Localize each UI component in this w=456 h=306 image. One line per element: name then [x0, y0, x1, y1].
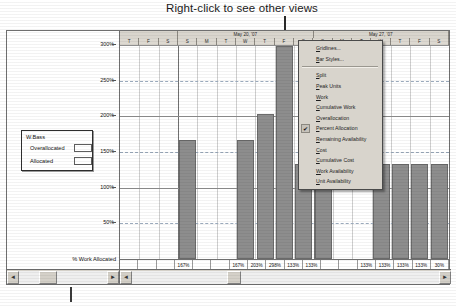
- bar[interactable]: [237, 140, 254, 259]
- timescale-day-cell: S: [178, 38, 197, 45]
- context-menu-item[interactable]: Unit Availability: [299, 176, 382, 187]
- timescale-day-cell: T: [391, 38, 410, 45]
- bar[interactable]: [392, 164, 409, 259]
- timescale-day-cell: S: [430, 38, 449, 45]
- timescale-major-cell: May 27, '07: [314, 31, 449, 38]
- y-axis-tick: [112, 80, 116, 81]
- bar[interactable]: [257, 114, 274, 259]
- context-menu-item[interactable]: Cumulative Work: [299, 102, 382, 113]
- context-menu-item[interactable]: Bar Styles...: [299, 54, 382, 65]
- bar[interactable]: [431, 164, 448, 259]
- context-menu-item-label: Percent Allocation: [316, 125, 358, 131]
- context-menu-item-label: Peak Units: [316, 83, 341, 89]
- bottom-leader-line: [70, 287, 72, 302]
- scroll-thumb[interactable]: [227, 271, 241, 284]
- context-menu-item[interactable]: Work Availability: [299, 166, 382, 177]
- context-menu-item-label: Work: [316, 94, 328, 100]
- context-menu-item-label: Gridlines...: [316, 45, 341, 51]
- scroll-left-arrow-icon[interactable]: ◄: [7, 271, 19, 284]
- checkmark-icon: ✔: [301, 124, 310, 133]
- context-menu-item[interactable]: Remaining Availability: [299, 134, 382, 145]
- context-menu-item-label: Overallocation: [316, 115, 349, 121]
- context-menu-item-label: Bar Styles...: [316, 56, 344, 62]
- timescale-day-cell: T: [120, 38, 139, 45]
- left-pane-hscrollbar[interactable]: ◄ ►: [7, 269, 120, 284]
- timescale-header[interactable]: May 20, '07May 27, '07 TFSSMTWTFSSMTWTFS: [120, 31, 449, 45]
- context-menu-item-label: Unit Availability: [316, 178, 351, 184]
- timescale-day-cell: F: [410, 38, 429, 45]
- timescale-day-cell: F: [275, 38, 294, 45]
- context-menu-item[interactable]: Work: [299, 91, 382, 102]
- y-axis-tick: [112, 151, 116, 152]
- callout-text: Right-click to see other views: [166, 2, 318, 14]
- context-menu-item[interactable]: Peak Units: [299, 81, 382, 92]
- context-menu-item[interactable]: Cost: [299, 144, 382, 155]
- bar-series: [120, 45, 449, 259]
- timescale-day-cell: T: [217, 38, 236, 45]
- bar[interactable]: [179, 140, 196, 259]
- context-menu-item-label: Cumulative Cost: [316, 157, 354, 163]
- context-menu-item[interactable]: Overallocation: [299, 113, 382, 124]
- timescale-day-cell: S: [159, 38, 178, 45]
- bar[interactable]: [276, 46, 293, 259]
- scroll-track[interactable]: [132, 271, 439, 284]
- context-menu-item-label: Cost: [316, 147, 327, 153]
- resource-graph-chart-pane: May 20, '07May 27, '07 TFSSMTWTFSSMTWTFS…: [120, 31, 449, 270]
- context-menu-separator: [302, 66, 378, 68]
- context-menu-item[interactable]: Split: [299, 70, 382, 81]
- context-menu-item-label: Work Availability: [316, 168, 354, 174]
- scroll-right-arrow-icon[interactable]: ►: [107, 271, 119, 284]
- chart-pane-hscrollbar[interactable]: ◄ ►: [120, 269, 451, 284]
- timescale-minor-row: TFSSMTWTFSSMTWTFS: [120, 38, 449, 45]
- scroll-track[interactable]: [19, 271, 107, 284]
- timescale-day-cell: M: [197, 38, 216, 45]
- context-menu-item[interactable]: Cumulative Cost: [299, 155, 382, 166]
- context-menu-item-label: Cumulative Work: [316, 104, 355, 110]
- timescale-major-row: May 20, '07May 27, '07: [120, 31, 449, 38]
- scroll-right-arrow-icon[interactable]: ►: [439, 271, 451, 284]
- screenshot-root: Right-click to see other views W.Bass Ov…: [0, 0, 456, 306]
- y-axis-labels: 300%250%200%150%100%50%: [0, 30, 119, 269]
- timescale-major-cell: May 20, '07: [178, 31, 313, 38]
- timescale-major-cell: [120, 31, 178, 38]
- timescale-day-cell: F: [139, 38, 158, 45]
- context-menu-item-label: Remaining Availability: [316, 136, 366, 142]
- timescale-day-cell: T: [255, 38, 274, 45]
- y-axis-tick: [112, 115, 116, 116]
- chart-plot-area[interactable]: [120, 45, 449, 259]
- y-axis-tick: [112, 187, 116, 188]
- bar[interactable]: [411, 164, 428, 259]
- y-axis-tick: [112, 44, 116, 45]
- scroll-left-arrow-icon[interactable]: ◄: [120, 271, 132, 284]
- scroll-thumb[interactable]: [39, 271, 57, 284]
- y-axis-tick: [112, 222, 116, 223]
- context-menu[interactable]: Gridlines...Bar Styles...SplitPeak Units…: [298, 40, 383, 190]
- context-menu-item[interactable]: ✔Percent Allocation: [299, 123, 382, 134]
- context-menu-item[interactable]: Gridlines...: [299, 43, 382, 54]
- timescale-day-cell: W: [236, 38, 255, 45]
- context-menu-item-label: Split: [316, 72, 326, 78]
